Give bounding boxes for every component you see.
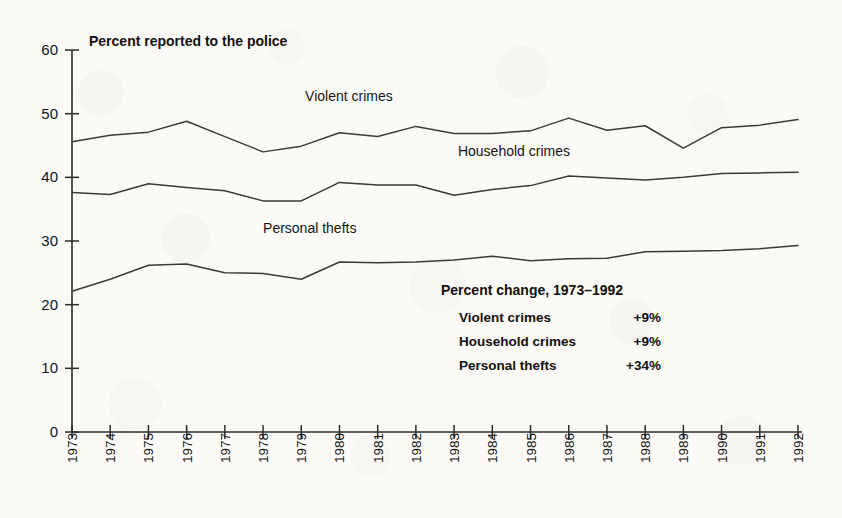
x-axis: 1973197419751976197719781979198019811982… — [65, 425, 806, 463]
x-axis-tick-label: 1983 — [447, 433, 462, 463]
series-lines — [72, 118, 798, 291]
x-axis-tick-label: 1992 — [791, 433, 806, 463]
annotation-row-value: +34% — [626, 358, 661, 373]
y-axis: 0102030405060 — [41, 41, 79, 440]
y-axis-tick-label: 40 — [41, 168, 58, 185]
annotation-row-label: Personal thefts — [459, 358, 557, 373]
series-label-personal-thefts: Personal thefts — [263, 220, 356, 236]
x-axis-tick-label: 1978 — [256, 433, 271, 463]
x-axis-tick-label: 1987 — [600, 433, 615, 463]
x-axis-tick-label: 1976 — [180, 433, 195, 463]
x-axis-tick-label: 1990 — [715, 433, 730, 463]
series-inline-labels: Violent crimesHousehold crimesPersonal t… — [263, 88, 570, 236]
x-axis-tick-label: 1985 — [524, 433, 539, 463]
x-axis-tick-label: 1982 — [409, 433, 424, 463]
x-axis-tick-label: 1988 — [638, 433, 653, 463]
y-axis-tick-label: 60 — [41, 41, 58, 58]
series-line-violent-crimes — [72, 118, 798, 152]
x-axis-tick-label: 1986 — [562, 433, 577, 463]
line-chart-figure: 0102030405060 19731974197519761977197819… — [0, 0, 842, 518]
x-axis-tick-label: 1973 — [65, 433, 80, 463]
y-axis-tick-label: 50 — [41, 105, 58, 122]
x-axis-tick-label: 1981 — [371, 433, 386, 463]
chart-title: Percent reported to the police — [89, 33, 288, 49]
x-axis-tick-label: 1989 — [676, 433, 691, 463]
chart-canvas: 0102030405060 19731974197519761977197819… — [0, 0, 842, 518]
x-axis-tick-label: 1977 — [218, 433, 233, 463]
x-axis-tick-label: 1975 — [141, 433, 156, 463]
y-axis-tick-label: 30 — [41, 232, 58, 249]
annotation-row-value: +9% — [634, 310, 661, 325]
series-label-household-crimes: Household crimes — [458, 143, 570, 159]
x-axis-tick-label: 1984 — [485, 432, 500, 463]
x-axis-tick-label: 1979 — [294, 433, 309, 463]
series-line-household-crimes — [72, 172, 798, 201]
x-axis-tick-label: 1974 — [103, 432, 118, 463]
series-line-personal-thefts — [72, 245, 798, 291]
x-axis-tick-label: 1980 — [332, 433, 347, 463]
annotation-row-label: Violent crimes — [459, 310, 551, 325]
y-axis-tick-label: 0 — [50, 423, 58, 440]
annotation-title: Percent change, 1973–1992 — [441, 282, 623, 298]
annotation-row-label: Household crimes — [459, 334, 576, 349]
percent-change-annotation: Percent change, 1973–1992Violent crimes+… — [441, 282, 661, 373]
y-axis-tick-label: 10 — [41, 359, 58, 376]
annotation-row-value: +9% — [634, 334, 661, 349]
x-axis-tick-label: 1991 — [753, 433, 768, 463]
series-label-violent-crimes: Violent crimes — [305, 88, 393, 104]
y-axis-tick-label: 20 — [41, 296, 58, 313]
